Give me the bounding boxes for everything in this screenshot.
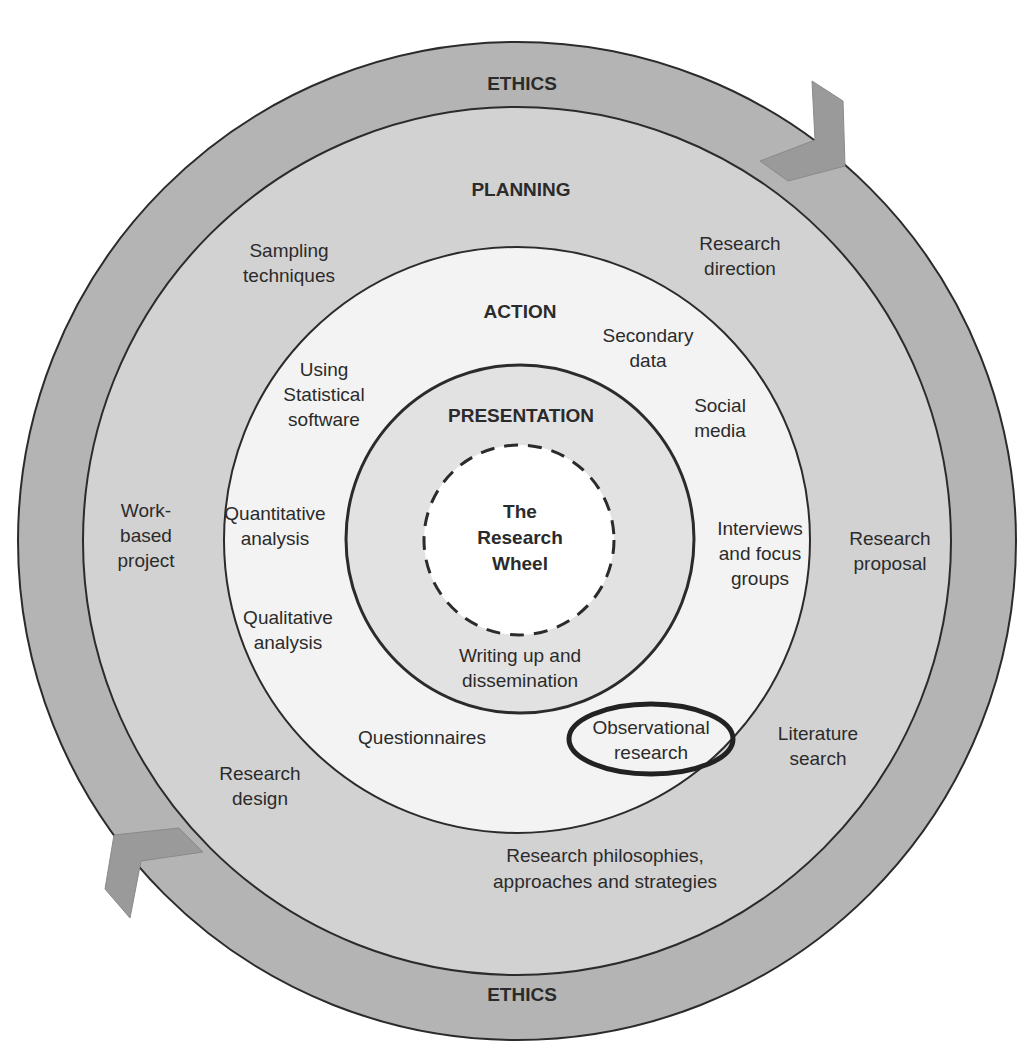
- svg-text:project: project: [117, 550, 175, 571]
- svg-text:Interviews: Interviews: [717, 518, 803, 539]
- ethics-label-bottom: ETHICS: [487, 984, 557, 1005]
- svg-text:media: media: [694, 420, 746, 441]
- svg-text:groups: groups: [731, 568, 789, 589]
- svg-text:Social: Social: [694, 395, 746, 416]
- svg-text:techniques: techniques: [243, 265, 335, 286]
- svg-text:Literature: Literature: [778, 723, 858, 744]
- svg-text:analysis: analysis: [241, 528, 310, 549]
- svg-text:The: The: [503, 501, 537, 522]
- ethics-label-top: ETHICS: [487, 73, 557, 94]
- svg-text:dissemination: dissemination: [462, 670, 578, 691]
- planning-item-work-based-project: Work- based project: [117, 500, 175, 571]
- svg-text:Wheel: Wheel: [492, 553, 548, 574]
- svg-text:Research: Research: [699, 233, 780, 254]
- action-label: ACTION: [484, 301, 557, 322]
- svg-text:Observational: Observational: [592, 717, 709, 738]
- svg-text:approaches and strategies: approaches and strategies: [493, 871, 717, 892]
- svg-text:Using: Using: [300, 359, 349, 380]
- svg-text:Writing up and: Writing up and: [459, 645, 581, 666]
- svg-text:Research: Research: [477, 527, 563, 548]
- svg-text:Questionnaires: Questionnaires: [358, 727, 486, 748]
- svg-text:proposal: proposal: [854, 553, 927, 574]
- svg-text:Statistical: Statistical: [283, 384, 364, 405]
- presentation-label: PRESENTATION: [448, 405, 594, 426]
- svg-text:Secondary: Secondary: [603, 325, 694, 346]
- svg-text:Research philosophies,: Research philosophies,: [506, 845, 704, 866]
- svg-text:search: search: [789, 748, 846, 769]
- svg-text:and focus: and focus: [719, 543, 801, 564]
- svg-text:Work-: Work-: [121, 500, 171, 521]
- svg-text:data: data: [630, 350, 667, 371]
- svg-text:Quantitative: Quantitative: [224, 503, 325, 524]
- research-wheel-diagram: ETHICS ETHICS PLANNING Sampling techniqu…: [0, 0, 1035, 1063]
- action-item-questionnaires: Questionnaires: [358, 727, 486, 748]
- svg-text:research: research: [614, 742, 688, 763]
- svg-text:Research: Research: [849, 528, 930, 549]
- svg-text:design: design: [232, 788, 288, 809]
- planning-label: PLANNING: [471, 179, 570, 200]
- svg-text:based: based: [120, 525, 172, 546]
- svg-text:Sampling: Sampling: [249, 240, 328, 261]
- svg-text:software: software: [288, 409, 360, 430]
- svg-text:direction: direction: [704, 258, 776, 279]
- svg-text:Qualitative: Qualitative: [243, 607, 333, 628]
- svg-text:Research: Research: [219, 763, 300, 784]
- svg-text:analysis: analysis: [254, 632, 323, 653]
